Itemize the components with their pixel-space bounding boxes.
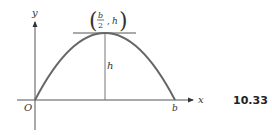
parabola-diagram: y x O b h ( b 2 , h ) 10.33 (0, 0, 272, 135)
y-axis-label: y (31, 7, 38, 18)
figure-number: 10.33 (233, 94, 268, 107)
vertex-separator: , (107, 16, 110, 26)
vertex-x-denominator: 2 (98, 21, 103, 30)
vertex-x-numerator: b (98, 11, 103, 20)
vertex-y: h (112, 16, 118, 26)
vertex-open-paren: ( (89, 8, 98, 33)
vertex-label: ( b 2 , h ) (89, 8, 128, 33)
height-label: h (107, 60, 113, 71)
x-axis-label: x (198, 94, 204, 105)
root-b-label: b (172, 103, 178, 113)
vertex-close-paren: ) (119, 8, 128, 33)
origin-label: O (24, 102, 32, 113)
